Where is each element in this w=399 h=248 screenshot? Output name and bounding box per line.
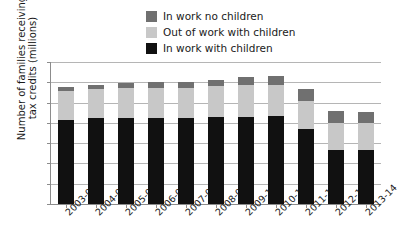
- bar-segment: [118, 88, 135, 117]
- bar-segment: [358, 112, 375, 123]
- bar-segment: [238, 117, 255, 204]
- bar-segment: [88, 118, 105, 204]
- y-tick-mark: [47, 62, 51, 63]
- bar-segment: [208, 117, 225, 204]
- bar-segment: [148, 118, 165, 204]
- y-tick-mark: [47, 143, 51, 144]
- y-tick-mark: [47, 82, 51, 83]
- bar-2003-04: [58, 87, 75, 204]
- y-tick-mark: [47, 103, 51, 104]
- bar-segment: [178, 118, 195, 204]
- bar-segment: [88, 89, 105, 117]
- y-gridline: [51, 62, 381, 63]
- bar-segment: [268, 116, 285, 204]
- bar-segment: [358, 150, 375, 204]
- bar-segment: [58, 91, 75, 119]
- bar-segment: [58, 120, 75, 204]
- y-tick-mark: [47, 163, 51, 164]
- bar-2012-13: [328, 111, 345, 204]
- bar-segment: [148, 88, 165, 117]
- bar-segment: [358, 123, 375, 150]
- bar-segment: [328, 111, 345, 123]
- bar-segment: [238, 85, 255, 116]
- bar-2013-14: [358, 112, 375, 204]
- bar-segment: [268, 76, 285, 85]
- plot-area: 012345672003-042004-052005-062006-072007…: [50, 62, 380, 204]
- bar-segment: [328, 123, 345, 150]
- y-tick-mark: [47, 204, 51, 205]
- bar-segment: [178, 88, 195, 117]
- y-tick-mark: [47, 184, 51, 185]
- y-tick-mark: [47, 123, 51, 124]
- bar-segment: [298, 129, 315, 204]
- bar-2005-06: [118, 83, 135, 204]
- bar-2004-05: [88, 85, 105, 204]
- bar-segment: [208, 86, 225, 116]
- bar-2008-09: [208, 80, 225, 204]
- bar-segment: [268, 85, 285, 115]
- bar-segment: [238, 77, 255, 85]
- bar-segment: [328, 150, 345, 204]
- bar-segment: [298, 89, 315, 100]
- bar-2009-10: [238, 77, 255, 204]
- bar-2011-12: [298, 89, 315, 204]
- bar-2006-07: [148, 82, 165, 204]
- bar-segment: [118, 118, 135, 204]
- bar-segment: [298, 101, 315, 129]
- bar-2007-08: [178, 82, 195, 204]
- bar-2010-11: [268, 76, 285, 204]
